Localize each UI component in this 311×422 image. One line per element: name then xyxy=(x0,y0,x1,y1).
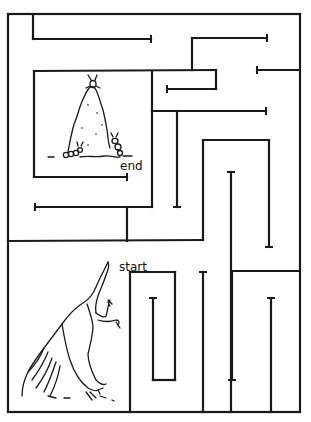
ant-icon xyxy=(111,133,123,156)
dots xyxy=(81,104,103,146)
maze-wall xyxy=(34,70,216,71)
anthill-illustration xyxy=(48,75,132,158)
maze-wall xyxy=(8,240,203,241)
maze-walls xyxy=(8,15,299,412)
start-label: start xyxy=(119,260,147,274)
end-label: end xyxy=(120,159,143,173)
anthill-icon xyxy=(68,87,110,152)
ant-icon xyxy=(86,75,100,88)
anteater-illustration xyxy=(22,262,120,401)
ant-icon xyxy=(63,142,83,158)
maze-board: start end xyxy=(0,0,311,422)
